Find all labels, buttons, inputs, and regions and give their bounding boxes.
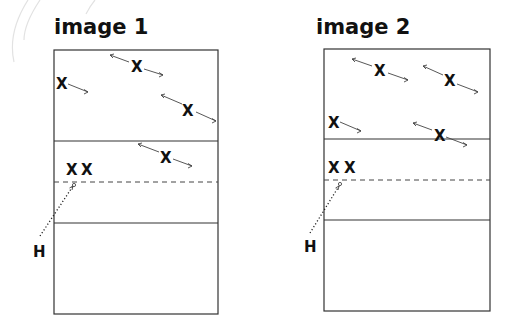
player-marker: X: [344, 159, 356, 177]
player-marker: X: [423, 65, 478, 94]
diagram-title: image 1: [54, 15, 148, 39]
arrow-left-icon: [423, 65, 443, 75]
arrow-right-icon: [340, 122, 361, 133]
player-marker: X: [328, 114, 361, 133]
arrow-left-icon: [352, 58, 372, 66]
arrow-left-icon: [138, 143, 159, 152]
diagram-image-2: image 2 X X X X X X: [304, 15, 490, 311]
svg-text:X: X: [374, 62, 386, 80]
svg-text:X: X: [56, 75, 68, 93]
player-marker: X: [328, 159, 340, 177]
arrow-left-icon: [161, 94, 182, 104]
arrow-right-icon: [388, 73, 408, 82]
ball-icon: [72, 183, 75, 186]
ball-icon: [338, 182, 341, 185]
arrow-right-icon: [196, 112, 216, 123]
svg-text:X: X: [160, 149, 172, 167]
arrow-right-icon: [457, 84, 478, 94]
player-marker: X: [161, 94, 216, 123]
arrow-right-icon: [144, 69, 163, 77]
svg-text:X: X: [182, 102, 194, 120]
hitter-marker: H: [304, 238, 317, 256]
arrow-left-icon: [110, 54, 129, 62]
hit-trajectory: [40, 186, 73, 236]
diagram-canvas: image 1 X X X X X X: [0, 0, 516, 324]
arrow-left-icon: [413, 122, 432, 130]
svg-text:X: X: [444, 72, 456, 90]
player-marker: X: [56, 75, 88, 94]
diagram-image-1: image 1 X X X X X X: [33, 15, 218, 314]
player-marker: X: [110, 54, 163, 77]
arrow-right-icon: [173, 159, 192, 168]
diagram-title: image 2: [316, 15, 410, 39]
svg-text:X: X: [434, 127, 446, 145]
hitter-marker: H: [33, 243, 46, 261]
player-marker: X: [352, 58, 408, 82]
arrow-right-icon: [68, 84, 88, 94]
svg-text:X: X: [328, 114, 340, 132]
player-marker: X: [66, 161, 78, 179]
player-marker: X: [81, 161, 93, 179]
svg-text:X: X: [131, 58, 143, 76]
player-marker: X: [138, 143, 192, 168]
player-marker: X: [413, 122, 467, 147]
